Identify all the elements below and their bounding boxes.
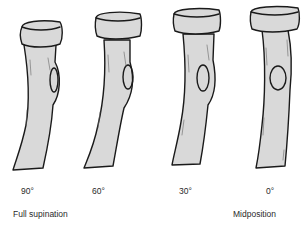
radius-bone-90	[13, 21, 62, 170]
angle-label-90: 90°	[21, 186, 34, 196]
radius-bone-60	[84, 12, 142, 168]
angle-label-60: 60°	[92, 186, 105, 196]
radius-rotation-diagram	[0, 0, 301, 229]
angle-label-30: 30°	[179, 186, 192, 196]
full-supination-label: Full supination	[13, 209, 68, 219]
angle-label-0: 0°	[266, 186, 274, 196]
radius-bone-0	[250, 7, 299, 168]
radius-bone-30	[172, 9, 221, 165]
midposition-label: Midposition	[233, 209, 276, 219]
